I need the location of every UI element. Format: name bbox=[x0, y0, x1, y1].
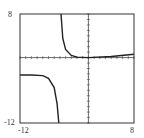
curve-right-branch bbox=[61, 14, 134, 58]
plot bbox=[0, 0, 144, 138]
y-max-label: 8 bbox=[8, 11, 12, 19]
axis-ticks bbox=[20, 14, 134, 123]
y-min-label: -12 bbox=[4, 119, 15, 127]
x-max-label: 8 bbox=[130, 127, 134, 135]
curve-left-branch bbox=[20, 75, 59, 123]
plot-frame bbox=[20, 14, 134, 123]
x-min-label: -12 bbox=[18, 127, 29, 135]
